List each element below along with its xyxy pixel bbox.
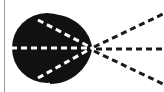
outer-ray-upper [94, 14, 163, 47]
ray-convergence-diagram [0, 0, 164, 92]
outer-dashed-rays [94, 14, 164, 84]
outer-ray-lower [94, 51, 163, 84]
